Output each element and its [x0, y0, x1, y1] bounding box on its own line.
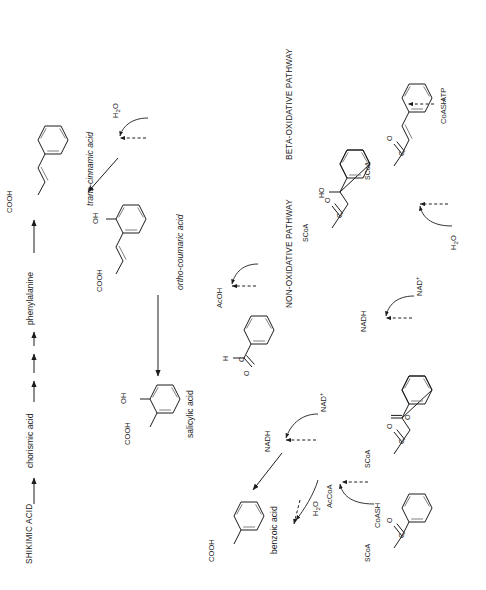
rotated-diagram-content: SHIKIMIC ACID chorismic acid phenylalani…	[0, 0, 486, 590]
cofactor-label-h2o-c: H2O	[450, 235, 459, 250]
cofactor-arrow-h2o-c	[0, 0, 486, 590]
figure-canvas: SHIKIMIC ACID chorismic acid phenylalani…	[0, 0, 486, 590]
